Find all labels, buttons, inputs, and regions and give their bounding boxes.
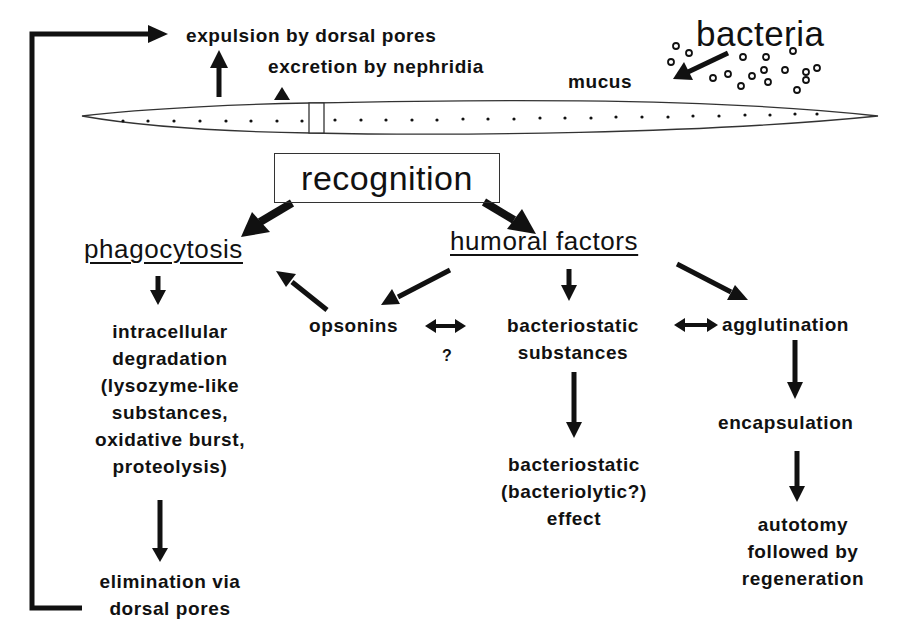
degradation-line: substances, [70, 399, 270, 426]
bacteriostatic-effect-line: bacteriostatic [474, 451, 674, 478]
recognition-to-phagocytosis-arrow [241, 203, 292, 237]
phagocytosis-heading: phagocytosis [84, 236, 243, 263]
degradation-line: intracellular [70, 318, 270, 345]
opsonins-label: opsonins [309, 312, 398, 339]
humoral-to-opsonins-arrow [381, 270, 450, 305]
worm-body-icon [82, 101, 878, 135]
humoral-factors-heading: humoral factors [450, 228, 638, 255]
bacteriostatic-agglutination-double-arrow [674, 318, 718, 332]
degradation-line: oxidative burst, [70, 426, 270, 453]
humoral-to-bacteriostatic-arrow [561, 269, 577, 301]
opsonins-bacteriostatic-double-arrow [425, 319, 466, 333]
question-mark-label: ? [442, 342, 452, 369]
bacteriostatic-substances-block: bacteriostatic substances [478, 312, 668, 366]
autotomy-line: followed by [718, 538, 888, 565]
bacteriostatic-effect-line: (bacteriolytic?) [474, 478, 674, 505]
encapsulation-label: encapsulation [718, 409, 854, 436]
degradation-line: (lysozyme-like [70, 372, 270, 399]
degradation-block: intracellular degradation (lysozyme-like… [70, 318, 270, 480]
excretion-label: excretion by nephridia [268, 53, 484, 80]
expulsion-arrow [210, 50, 228, 97]
bacteriostatic-substances-line: substances [478, 339, 668, 366]
elimination-line: dorsal pores [70, 595, 270, 622]
autotomy-line: autotomy [718, 511, 888, 538]
bacteriostatic-effect-line: effect [474, 505, 674, 532]
opsonins-to-phagocytosis-arrow [276, 271, 327, 310]
degradation-line: degradation [70, 345, 270, 372]
phagocytosis-to-degradation-arrow [150, 276, 166, 305]
bacteria-label: bacteria [696, 14, 825, 54]
autotomy-block: autotomy followed by regeneration [718, 511, 888, 592]
nephridia-marker-icon [274, 87, 290, 100]
elimination-block: elimination via dorsal pores [70, 568, 270, 622]
bacteria-arrow [673, 53, 728, 80]
elimination-line: elimination via [70, 568, 270, 595]
autotomy-line: regeneration [718, 565, 888, 592]
agglutination-label: agglutination [722, 311, 849, 338]
recognition-box: recognition [274, 153, 500, 203]
degradation-line: proteolysis) [70, 453, 270, 480]
bacteriostatic-effect-block: bacteriostatic (bacteriolytic?) effect [474, 451, 674, 532]
agglutination-to-encapsulation-arrow [787, 340, 803, 399]
diagram-canvas: expulsion by dorsal pores excretion by n… [0, 0, 906, 639]
humoral-to-agglutination-arrow [677, 264, 748, 300]
bacteriostatic-substances-line: bacteriostatic [478, 312, 668, 339]
expulsion-label: expulsion by dorsal pores [186, 22, 436, 49]
degradation-to-elimination-arrow [152, 500, 168, 562]
encapsulation-to-autotomy-arrow [789, 451, 805, 502]
mucus-label: mucus [568, 68, 632, 95]
bacteriostatic-to-effect-arrow [566, 372, 582, 438]
